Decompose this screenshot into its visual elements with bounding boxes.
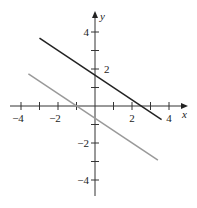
y-tick-label: −4 [77, 174, 89, 186]
x-tick-label: 2 [129, 112, 135, 124]
x-axis-label: x [181, 108, 187, 120]
gray-line [28, 74, 158, 160]
chart: −4−224 42−2−4 x y [0, 0, 197, 208]
x-tick-label: 4 [166, 112, 172, 124]
x-tick-label: −2 [49, 112, 61, 124]
y-tick-label: 4 [84, 26, 90, 38]
y-tick-label: −2 [77, 137, 89, 149]
x-tick-label: −4 [12, 112, 24, 124]
y-axis-label: y [99, 10, 105, 22]
y-tick-label: 2 [104, 63, 110, 75]
y-axis: 42−2−4 [77, 11, 109, 196]
